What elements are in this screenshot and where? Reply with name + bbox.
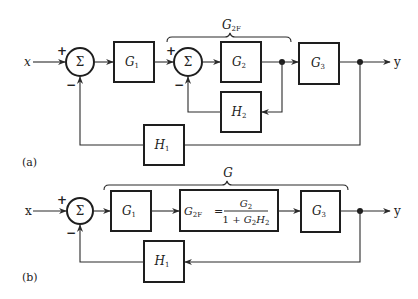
denominator-h-subscript: 2 bbox=[265, 219, 269, 227]
block-g1: G1 bbox=[111, 191, 151, 231]
g1-subscript: 1 bbox=[132, 211, 136, 219]
sigma-symbol: Σ bbox=[76, 55, 84, 69]
g1-subscript: 1 bbox=[135, 62, 139, 70]
block-g2f: G2F = G2 1 + G2H2 bbox=[180, 190, 278, 231]
feedback-h2-to-sum2 bbox=[188, 77, 221, 112]
numerator-subscript: 2 bbox=[248, 203, 252, 211]
g3-subscript: 3 bbox=[321, 63, 325, 71]
denominator-h: H bbox=[255, 214, 265, 225]
brace-g2f bbox=[167, 33, 291, 42]
h2-subscript: 2 bbox=[242, 112, 246, 120]
input-label-x: x bbox=[25, 204, 32, 218]
feedback-to-h2 bbox=[262, 62, 282, 112]
plus-sign: + bbox=[57, 193, 67, 207]
numerator-g2: G bbox=[240, 198, 248, 209]
sigma-symbol: Σ bbox=[184, 55, 192, 69]
brace-label-g2f: G bbox=[222, 18, 232, 32]
g2-label: G bbox=[232, 55, 242, 69]
g3-label: G bbox=[311, 56, 321, 70]
svg-text:G2F: G2F bbox=[222, 18, 241, 33]
h2-label: H bbox=[231, 105, 243, 119]
output-label-y: y bbox=[393, 55, 401, 69]
block-g2: G2 bbox=[221, 42, 261, 82]
g2-subscript: 2 bbox=[242, 62, 246, 70]
summing-junction-1: Σ + − bbox=[57, 193, 93, 240]
caption-b: (b) bbox=[22, 271, 38, 284]
g1-label: G bbox=[122, 204, 132, 218]
output-label-y: y bbox=[393, 204, 401, 218]
block-diagrams: x Σ + − G1 Σ + − G2F G2 bbox=[0, 0, 418, 299]
summing-junction-1: Σ + − bbox=[57, 44, 94, 92]
minus-sign: − bbox=[174, 78, 184, 92]
input-label-x: x bbox=[24, 55, 31, 69]
g3-label: G bbox=[312, 204, 322, 218]
block-g3: G3 bbox=[301, 191, 340, 232]
summing-junction-2: Σ + − bbox=[166, 44, 202, 92]
denominator-prefix: 1 + bbox=[223, 214, 244, 225]
diagram-a: x Σ + − G1 Σ + − G2F G2 bbox=[22, 18, 401, 169]
caption-a: (a) bbox=[22, 156, 37, 169]
h1-subscript: 1 bbox=[165, 261, 169, 269]
block-h1: H1 bbox=[144, 241, 184, 282]
brace-label-g: G bbox=[223, 166, 233, 180]
block-g3: G3 bbox=[299, 43, 339, 84]
g3-subscript: 3 bbox=[322, 211, 326, 219]
brace-label-subscript: 2F bbox=[232, 25, 241, 33]
denominator-g: G bbox=[244, 214, 252, 225]
g1-label: G bbox=[125, 55, 135, 69]
minus-sign: − bbox=[66, 78, 76, 92]
sigma-symbol: Σ bbox=[76, 204, 84, 218]
g2f-lhs: G bbox=[184, 205, 193, 218]
h1-label: H bbox=[154, 138, 166, 152]
brace-g bbox=[104, 181, 348, 190]
feedback-h1-to-sum1 bbox=[80, 77, 144, 145]
minus-sign: − bbox=[66, 226, 76, 240]
block-h2: H2 bbox=[221, 92, 261, 132]
h1-subscript: 1 bbox=[165, 145, 169, 153]
plus-sign: + bbox=[57, 44, 67, 58]
g2f-lhs-subscript: 2F bbox=[193, 211, 202, 219]
diagram-b: x Σ + − G G1 G2F = G2 1 + G2H2 G bbox=[22, 166, 401, 284]
block-h1: H1 bbox=[144, 125, 184, 165]
h1-label: H bbox=[154, 254, 166, 268]
block-g1: G1 bbox=[114, 42, 154, 82]
plus-sign: + bbox=[166, 44, 176, 58]
